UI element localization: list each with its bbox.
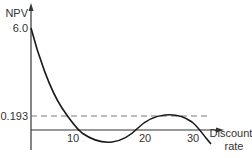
y-ref-label: 0.193: [0, 110, 28, 122]
y-axis-label: NPV: [5, 7, 28, 19]
y-tick-6: 6.0: [13, 22, 28, 34]
x-axis-label-line2: rate: [225, 140, 244, 152]
x-tick-20: 20: [139, 132, 151, 144]
npv-curve: [31, 28, 211, 144]
npv-chart: NPV 6.0 0.193 10 20 30 Discount rate: [0, 0, 252, 158]
x-axis-label-line1: Discount: [210, 127, 252, 139]
x-tick-10: 10: [67, 132, 79, 144]
y-axis-arrow-icon: [29, 3, 34, 11]
x-tick-30: 30: [187, 132, 199, 144]
